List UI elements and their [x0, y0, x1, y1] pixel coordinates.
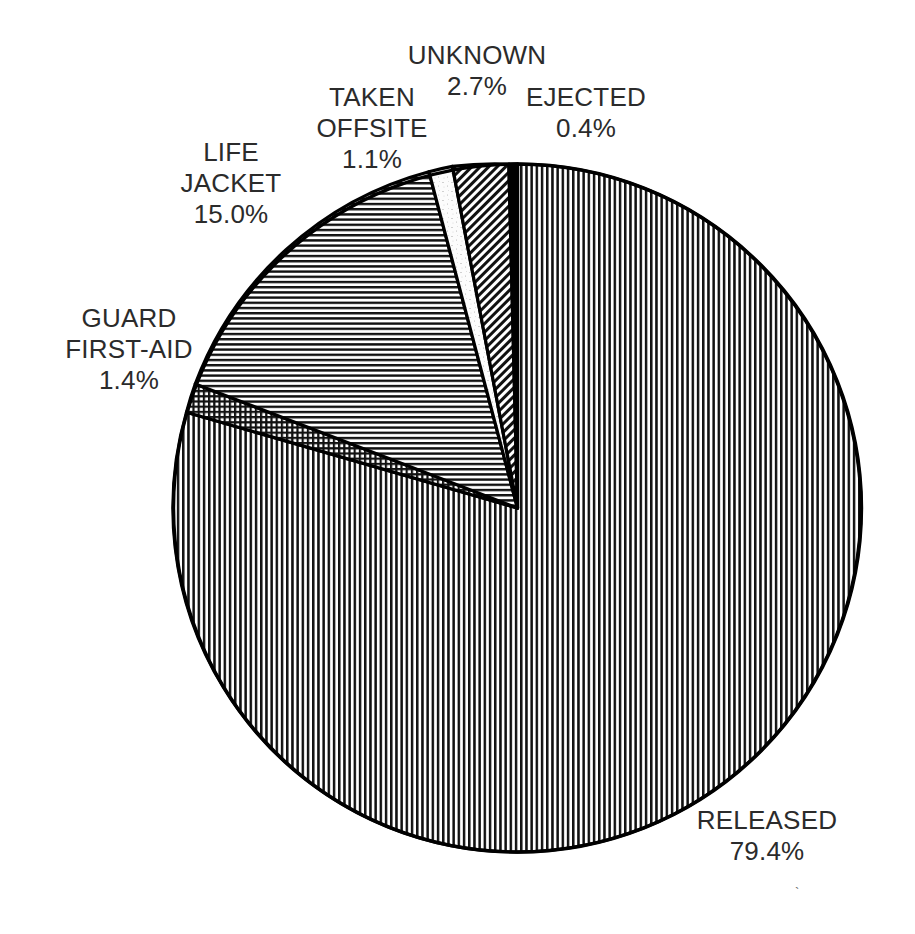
slice-label-unknown-name: UNKNOWN — [408, 40, 547, 71]
pie-chart-figure: UNKNOWN 2.7% TAKEN OFFSITE 1.1% EJECTED … — [0, 0, 915, 934]
slice-label-taken-offsite-line2: OFFSITE — [316, 113, 427, 144]
pie-chart-svg — [0, 0, 915, 934]
slice-label-released-pct: 79.4% — [697, 836, 837, 867]
scan-artifact-speck: ` — [795, 888, 802, 897]
slice-label-ejected-name: EJECTED — [526, 82, 646, 113]
slice-label-life-jacket: LIFE JACKET 15.0% — [181, 137, 282, 230]
slice-label-guard-first-aid-line2: FIRST-AID — [65, 334, 192, 365]
slice-label-guard-first-aid-line1: GUARD — [65, 303, 192, 334]
slice-label-released: RELEASED 79.4% — [697, 805, 837, 867]
slice-label-released-name: RELEASED — [697, 805, 837, 836]
slice-label-ejected-pct: 0.4% — [526, 113, 646, 144]
slice-label-life-jacket-pct: 15.0% — [181, 199, 282, 230]
pie-slices — [173, 164, 862, 852]
slice-label-taken-offsite-line1: TAKEN — [316, 82, 427, 113]
slice-label-life-jacket-line2: JACKET — [181, 168, 282, 199]
slice-label-taken-offsite-pct: 1.1% — [316, 144, 427, 175]
slice-label-guard-first-aid-pct: 1.4% — [65, 365, 192, 396]
slice-label-guard-first-aid: GUARD FIRST-AID 1.4% — [65, 303, 192, 396]
slice-label-taken-offsite: TAKEN OFFSITE 1.1% — [316, 82, 427, 175]
slice-label-ejected: EJECTED 0.4% — [526, 82, 646, 144]
slice-label-life-jacket-line1: LIFE — [181, 137, 282, 168]
